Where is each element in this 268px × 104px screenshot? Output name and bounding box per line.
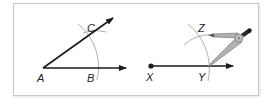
- label-C: C: [87, 22, 95, 34]
- label-Z: Z: [197, 22, 206, 34]
- label-X: X: [145, 71, 154, 83]
- right-construction: X Y Z: [145, 22, 252, 83]
- angle-copy-diagram: A B C X Y Z: [0, 0, 268, 104]
- label-A: A: [36, 72, 44, 84]
- ray-AC: [43, 18, 113, 68]
- label-Y: Y: [198, 71, 206, 83]
- point-X: [148, 63, 153, 68]
- compass-icon: [208, 28, 252, 66]
- left-construction: A B C: [36, 18, 126, 84]
- arc-centered-Y: [184, 35, 214, 45]
- label-B: B: [87, 72, 94, 84]
